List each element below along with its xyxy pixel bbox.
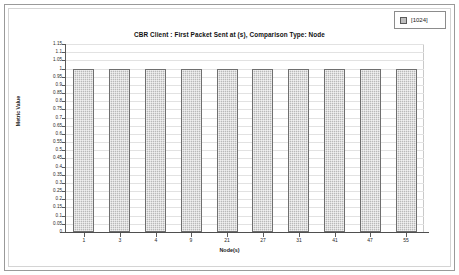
y-axis-tick-label: 0.55 — [22, 140, 62, 145]
x-axis-tick-label: 31 — [287, 238, 311, 243]
grid-line — [66, 60, 424, 61]
y-axis-tick — [62, 216, 65, 217]
y-axis-tick-label: 0.6 — [22, 132, 62, 137]
chart-title: CBR Client : First Packet Sent at (s), C… — [0, 31, 459, 38]
plot-area — [66, 44, 424, 232]
bar-41[interactable] — [324, 69, 345, 232]
y-axis-tick — [62, 142, 65, 143]
y-axis-tick-label: 0.2 — [22, 197, 62, 202]
y-axis-tick — [62, 60, 65, 61]
y-axis-tick-label: 0.15 — [22, 205, 62, 210]
y-axis-tick — [62, 183, 65, 184]
x-axis-tick-label: 27 — [251, 238, 275, 243]
y-axis-tick — [62, 109, 65, 110]
y-axis-tick-label: 0.25 — [22, 189, 62, 194]
y-axis-tick-label: 0.65 — [22, 124, 62, 129]
y-axis-tick-label: 0.05 — [22, 222, 62, 227]
y-axis-tick-label: 0.9 — [22, 83, 62, 88]
y-axis-tick — [62, 134, 65, 135]
bar-1[interactable] — [73, 69, 94, 232]
y-axis-tick-label: 0.3 — [22, 181, 62, 186]
bar-55[interactable] — [396, 69, 417, 232]
plot-right-border — [423, 44, 424, 232]
y-axis-tick-label: 0.1 — [22, 214, 62, 219]
y-axis-tick-label: 1.1 — [22, 50, 62, 55]
y-axis-tick — [62, 44, 65, 45]
y-axis-tick-label: 1.15 — [22, 42, 62, 47]
y-axis-tick — [62, 126, 65, 127]
x-axis-title: Node(s) — [0, 247, 459, 253]
y-axis-tick-labels: 1.151.11.0510.950.90.850.80.750.70.650.6… — [18, 0, 62, 275]
y-axis-tick — [62, 77, 65, 78]
grid-line — [66, 44, 424, 45]
y-axis-tick-label: 0.7 — [22, 116, 62, 121]
y-axis-tick — [62, 199, 65, 200]
chart-window: [1024] CBR Client : First Packet Sent at… — [0, 0, 459, 275]
y-axis-tick — [62, 93, 65, 94]
y-axis-tick — [62, 85, 65, 86]
bar-47[interactable] — [360, 69, 381, 232]
x-axis-tick-label: 55 — [394, 238, 418, 243]
x-axis-tick-label: 41 — [323, 238, 347, 243]
bar-27[interactable] — [252, 69, 273, 232]
bar-9[interactable] — [181, 69, 202, 232]
y-axis-tick-label: 0.8 — [22, 99, 62, 104]
bar-31[interactable] — [288, 69, 309, 232]
bar-3[interactable] — [109, 69, 130, 232]
y-axis-tick — [62, 69, 65, 70]
y-axis-tick-label: 0.5 — [22, 148, 62, 153]
y-axis-tick-label: 0.35 — [22, 173, 62, 178]
series-swatch-icon — [400, 17, 407, 24]
y-axis-tick — [62, 150, 65, 151]
y-axis-tick — [62, 167, 65, 168]
y-axis-tick — [62, 191, 65, 192]
y-axis-tick-label: 1 — [22, 67, 62, 72]
y-axis-tick-label: 0.4 — [22, 165, 62, 170]
y-axis-tick — [62, 52, 65, 53]
y-axis-tick-label: 0.75 — [22, 107, 62, 112]
y-axis-tick-label: 0.45 — [22, 156, 62, 161]
x-axis-tick-label: 47 — [358, 238, 382, 243]
y-axis-tick — [62, 158, 65, 159]
bar-21[interactable] — [217, 69, 238, 232]
x-axis-tick-label: 9 — [179, 238, 203, 243]
y-axis-line — [65, 44, 66, 233]
x-axis-tick-label: 3 — [108, 238, 132, 243]
legend-item-label: [1024] — [411, 17, 428, 23]
chart-legend[interactable]: [1024] — [394, 11, 446, 29]
grid-line — [66, 52, 424, 53]
x-axis-tick-label: 21 — [215, 238, 239, 243]
x-axis-tick-label: 4 — [144, 238, 168, 243]
x-axis-tick-label: 1 — [72, 238, 96, 243]
y-axis-tick — [62, 232, 65, 233]
y-axis-tick-label: 1.05 — [22, 58, 62, 63]
y-axis-tick-label: 0.85 — [22, 91, 62, 96]
y-axis-tick — [62, 207, 65, 208]
y-axis-tick-label: 0 — [22, 230, 62, 235]
y-axis-tick — [62, 175, 65, 176]
y-axis-tick — [62, 101, 65, 102]
bar-4[interactable] — [145, 69, 166, 232]
x-axis-line — [60, 232, 429, 233]
y-axis-tick — [62, 224, 65, 225]
y-axis-tick — [62, 118, 65, 119]
y-axis-tick-label: 0.95 — [22, 75, 62, 80]
